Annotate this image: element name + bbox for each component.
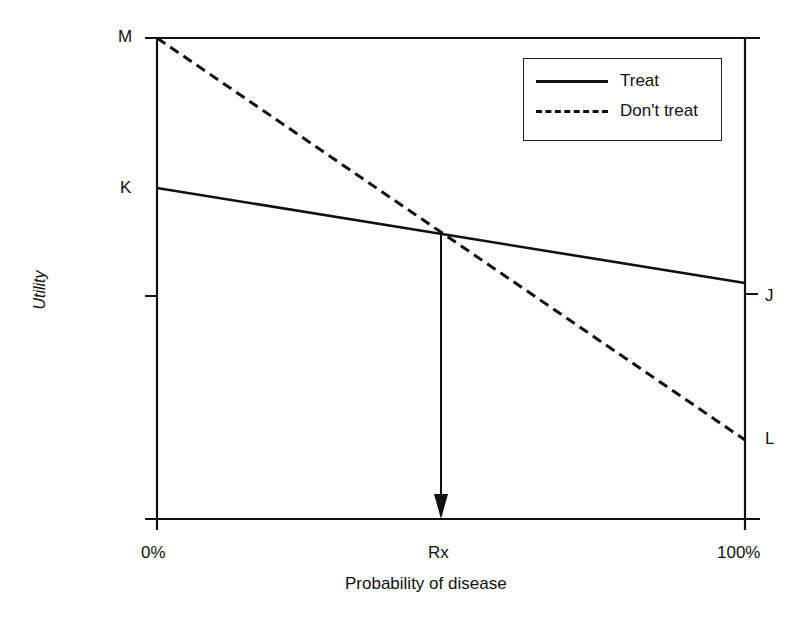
legend-item-treat: Treat — [536, 71, 659, 91]
legend-label-dont-treat: Don't treat — [620, 101, 698, 121]
legend-item-dont-treat: Don't treat — [536, 101, 698, 121]
threshold-arrow-head — [434, 494, 448, 519]
x-tick-label-rx: Rx — [428, 543, 449, 563]
dashed-line-icon — [536, 110, 608, 113]
legend-label-treat: Treat — [620, 71, 659, 91]
x-tick-label-0: 0% — [141, 543, 166, 563]
treat-line — [157, 188, 745, 283]
point-label-m: M — [118, 27, 132, 47]
x-tick-label-100: 100% — [717, 543, 760, 563]
point-label-k: K — [120, 178, 131, 198]
point-label-j: J — [765, 286, 774, 306]
x-axis-title: Probability of disease — [345, 574, 507, 594]
point-label-l: L — [765, 429, 774, 449]
y-axis-title: Utility — [31, 270, 49, 309]
solid-line-icon — [536, 80, 608, 83]
legend: Treat Don't treat — [523, 58, 722, 141]
